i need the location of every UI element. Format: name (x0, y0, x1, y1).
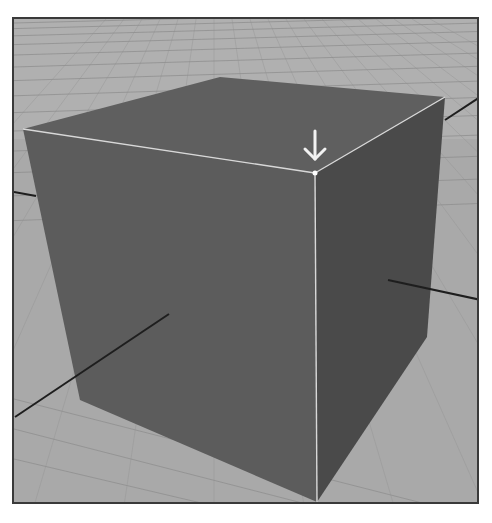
selected-vertex[interactable] (313, 171, 318, 176)
scene-canvas[interactable] (14, 19, 479, 504)
viewport[interactable] (12, 17, 479, 504)
